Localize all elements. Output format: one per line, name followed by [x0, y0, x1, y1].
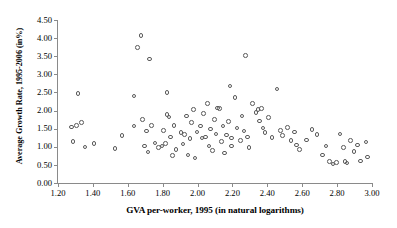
data-point: [229, 144, 234, 149]
x-tick-mark: [302, 184, 303, 187]
y-tick-label: 4.50: [26, 16, 52, 25]
x-axis-line: [57, 183, 373, 184]
data-point: [189, 120, 194, 125]
data-point: [219, 139, 224, 144]
data-point: [198, 124, 203, 129]
x-tick-label: 1.60: [113, 189, 143, 198]
y-tick-mark: [54, 20, 57, 21]
data-point: [280, 133, 285, 138]
x-tick-mark: [128, 184, 129, 187]
data-point: [250, 101, 255, 106]
data-point: [365, 155, 370, 160]
data-point: [243, 53, 248, 58]
y-tick-label: 3.50: [26, 52, 52, 61]
data-point: [338, 132, 343, 137]
data-point: [205, 101, 210, 106]
data-point: [341, 145, 346, 150]
data-point: [355, 143, 360, 148]
data-point: [263, 130, 268, 135]
data-point: [242, 129, 247, 134]
plot-area: [58, 20, 372, 183]
x-tick-label: 2.80: [322, 189, 352, 198]
data-point: [140, 117, 145, 122]
y-tick-mark: [54, 74, 57, 75]
y-tick-mark: [54, 92, 57, 93]
data-point: [139, 33, 144, 38]
data-point: [142, 144, 147, 149]
data-point: [348, 138, 353, 143]
data-point: [83, 145, 88, 150]
y-tick-label: 4.00: [26, 34, 52, 43]
data-point: [168, 135, 173, 140]
data-point: [324, 144, 329, 149]
x-tick-label: 2.20: [217, 189, 247, 198]
y-tick-mark: [54, 111, 57, 112]
y-tick-label: 0.50: [26, 161, 52, 170]
data-point: [238, 138, 243, 143]
data-point: [144, 129, 149, 134]
data-point: [69, 125, 74, 130]
data-point: [229, 136, 234, 141]
data-point: [224, 133, 229, 138]
y-tick-label: 1.50: [26, 124, 52, 133]
data-point: [147, 57, 152, 62]
data-point: [226, 119, 231, 124]
x-tick-mark: [58, 184, 59, 187]
x-tick-mark: [163, 184, 164, 187]
y-tick-label: 1.00: [26, 142, 52, 151]
data-point: [297, 147, 302, 152]
x-tick-label: 1.80: [148, 189, 178, 198]
data-point: [210, 148, 215, 153]
data-point: [71, 139, 76, 144]
y-tick-mark: [54, 56, 57, 57]
y-tick-label: 2.50: [26, 88, 52, 97]
data-point: [259, 106, 264, 111]
data-point: [165, 90, 170, 95]
data-point: [79, 120, 84, 125]
data-point: [245, 135, 250, 140]
data-point: [203, 135, 208, 140]
y-tick-mark: [54, 147, 57, 148]
data-point: [186, 153, 191, 158]
data-point: [135, 45, 140, 50]
data-point: [214, 132, 219, 137]
data-point: [310, 127, 315, 132]
data-point: [320, 153, 325, 158]
x-tick-mark: [232, 184, 233, 187]
data-point: [345, 161, 350, 166]
data-point: [174, 147, 179, 152]
data-point: [188, 136, 193, 141]
data-point: [257, 119, 262, 124]
y-tick-mark: [54, 38, 57, 39]
y-tick-label: 2.00: [26, 106, 52, 115]
data-point: [266, 115, 271, 120]
data-point: [146, 150, 151, 155]
x-tick-label: 2.40: [252, 189, 282, 198]
data-point: [217, 106, 222, 111]
x-tick-label: 3.00: [357, 189, 387, 198]
data-point: [184, 114, 189, 119]
data-point: [270, 135, 275, 140]
y-tick-label: 0.00: [26, 179, 52, 188]
data-point: [247, 145, 252, 150]
data-point: [201, 111, 206, 116]
y-tick-mark: [54, 165, 57, 166]
data-point: [113, 146, 118, 151]
data-point: [358, 159, 363, 164]
data-point: [167, 115, 172, 120]
data-point: [191, 107, 196, 112]
x-tick-label: 1.20: [43, 189, 73, 198]
data-point: [163, 141, 168, 146]
data-point: [120, 133, 125, 138]
data-point: [195, 130, 200, 135]
data-point: [132, 124, 137, 129]
x-axis-title: GVA per-worker, 1995 (in natural logarit…: [58, 205, 372, 215]
data-point: [212, 117, 217, 122]
data-point: [221, 124, 226, 129]
y-tick-mark: [54, 129, 57, 130]
x-tick-mark: [337, 184, 338, 187]
data-point: [132, 94, 137, 99]
x-tick-label: 2.00: [183, 189, 213, 198]
x-tick-mark: [93, 184, 94, 187]
data-point: [76, 91, 81, 96]
